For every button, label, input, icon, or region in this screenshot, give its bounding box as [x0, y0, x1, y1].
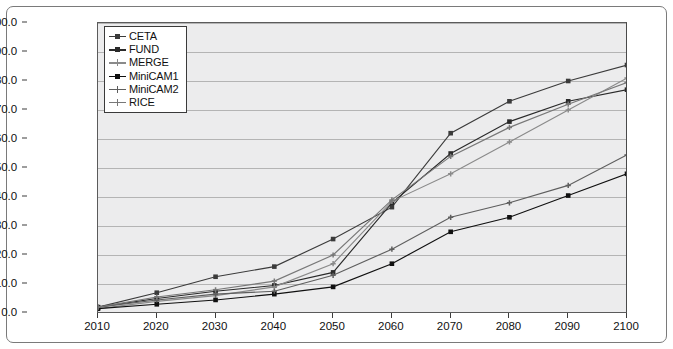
legend-label: FUND: [129, 43, 159, 56]
data-point: [624, 80, 627, 85]
y-tick-mark: [22, 312, 27, 313]
x-tick-mark: [626, 313, 627, 318]
data-point: [448, 230, 453, 235]
y-tick-mark: [22, 283, 27, 284]
y-tick-mark: [22, 138, 27, 139]
x-tick-label: 2030: [202, 320, 228, 332]
x-tick-mark: [508, 313, 509, 318]
legend-item-fund[interactable]: FUND: [109, 43, 179, 56]
series-line: [98, 82, 627, 307]
y-tick-label: 40.0: [0, 190, 17, 202]
data-point: [507, 99, 512, 104]
y-tick-label: 20.0: [0, 248, 17, 260]
y-axis: 0.010.020.030.040.050.060.070.080.090.01…: [0, 0, 97, 335]
legend-item-ceta[interactable]: CETA: [109, 30, 179, 43]
legend-label: MERGE: [129, 56, 169, 69]
data-point: [625, 63, 627, 68]
x-tick-label: 2020: [143, 320, 169, 332]
chart-figure: Reductions relative to the baseline (%) …: [0, 0, 673, 349]
data-point: [448, 171, 453, 176]
data-point: [154, 302, 159, 307]
data-point: [625, 87, 627, 92]
legend-marker-icon: [109, 84, 126, 95]
data-point: [272, 264, 277, 269]
y-tick-mark: [22, 109, 27, 110]
y-tick-label: 50.0: [0, 161, 17, 173]
data-point: [331, 237, 336, 242]
series-line: [98, 90, 627, 308]
legend-marker-icon: [109, 31, 126, 42]
y-tick-mark: [22, 254, 27, 255]
x-tick-label: 2070: [437, 320, 463, 332]
data-point: [624, 152, 627, 157]
legend-marker-icon: [109, 97, 126, 108]
y-tick-label: 30.0: [0, 219, 17, 231]
y-tick-mark: [22, 225, 27, 226]
series-minicam1: [98, 172, 627, 311]
x-tick-mark: [450, 313, 451, 318]
data-point: [154, 290, 159, 295]
x-tick-label: 2090: [554, 320, 580, 332]
data-point: [389, 247, 394, 252]
x-tick-mark: [215, 313, 216, 318]
data-point: [331, 285, 336, 290]
x-tick-label: 2040: [261, 320, 287, 332]
y-tick-label: 70.0: [0, 103, 17, 115]
data-point: [566, 107, 571, 112]
y-tick-mark: [22, 196, 27, 197]
legend-label: MiniCAM1: [129, 70, 179, 83]
legend-item-minicam1[interactable]: MiniCAM1: [109, 70, 179, 83]
y-tick-label: 0.0: [1, 306, 17, 318]
legend-item-merge[interactable]: MERGE: [109, 56, 179, 69]
x-tick-mark: [391, 313, 392, 318]
y-tick-label: 100.0: [0, 16, 17, 28]
legend-label: MiniCAM2: [129, 83, 179, 96]
data-point: [448, 215, 453, 220]
x-tick-mark: [273, 313, 274, 318]
data-point: [507, 139, 512, 144]
chart-legend: CETAFUNDMERGEMiniCAM1MiniCAM2RICE: [104, 26, 187, 113]
x-tick-label: 2080: [496, 320, 522, 332]
legend-marker-icon: [109, 44, 126, 55]
data-point: [507, 119, 512, 124]
x-tick-label: 2010: [84, 320, 110, 332]
data-point: [507, 125, 512, 130]
x-tick-mark: [567, 313, 568, 318]
data-point: [213, 274, 218, 279]
y-tick-mark: [22, 167, 27, 168]
series-minicam2: [98, 152, 627, 309]
data-point: [507, 200, 512, 205]
x-tick-mark: [97, 313, 98, 318]
series-line: [98, 155, 627, 307]
y-tick-mark: [22, 22, 27, 23]
legend-marker-icon: [109, 71, 126, 82]
y-tick-label: 80.0: [0, 74, 17, 86]
y-tick-mark: [22, 51, 27, 52]
data-point: [566, 79, 571, 84]
y-tick-label: 10.0: [0, 277, 17, 289]
legend-marker-icon: [109, 57, 126, 68]
data-point: [566, 183, 571, 188]
series-line: [98, 174, 627, 309]
x-tick-mark: [156, 313, 157, 318]
y-tick-label: 60.0: [0, 132, 17, 144]
x-tick-label: 2060: [378, 320, 404, 332]
data-point: [448, 131, 453, 136]
legend-item-minicam2[interactable]: MiniCAM2: [109, 83, 179, 96]
data-point: [625, 172, 627, 177]
x-axis: 2010202020302040205020602070208020902100: [97, 313, 628, 343]
data-point: [507, 215, 512, 220]
data-point: [213, 298, 218, 303]
x-tick-label: 2050: [319, 320, 345, 332]
x-tick-label: 2100: [613, 320, 639, 332]
data-point: [566, 193, 571, 198]
legend-item-rice[interactable]: RICE: [109, 96, 179, 109]
y-tick-label: 90.0: [0, 45, 17, 57]
legend-label: RICE: [129, 96, 155, 109]
legend-label: CETA: [129, 30, 157, 43]
data-point: [272, 279, 277, 284]
y-tick-mark: [22, 80, 27, 81]
data-point: [390, 261, 395, 266]
x-tick-mark: [332, 313, 333, 318]
